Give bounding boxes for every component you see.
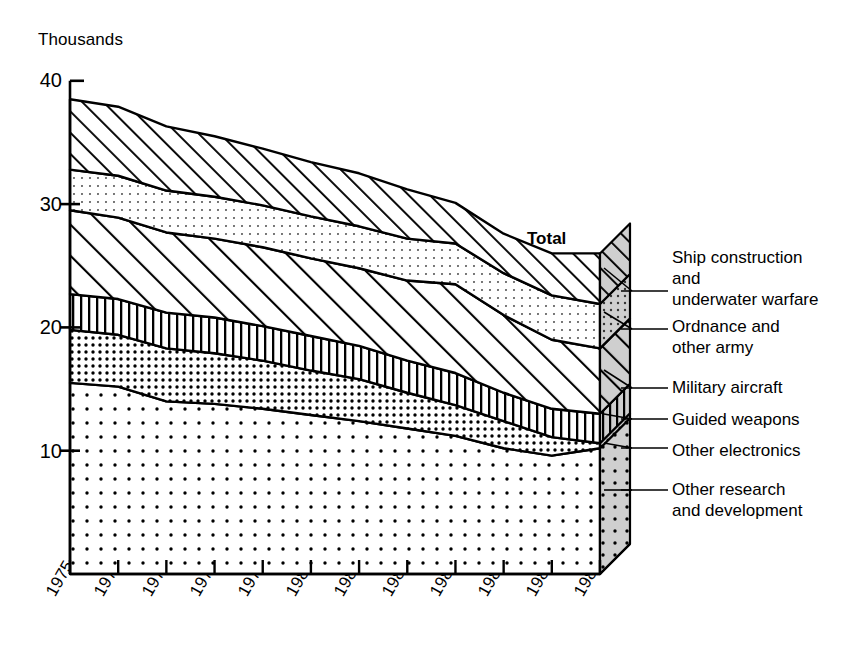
chart-canvas: [0, 0, 847, 657]
chart-root: Thousands 40 30 20 10 1975 1976 1977 197…: [0, 0, 847, 657]
stacked-area-bands: [70, 99, 600, 574]
